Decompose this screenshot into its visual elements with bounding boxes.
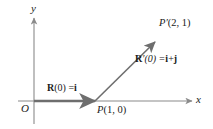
- point-p-prime-symbol: P′: [159, 17, 168, 28]
- vector-diagram: y x O P(1, 0) P′(2, 1) R(0) =i R′(0) =i+…: [0, 0, 213, 129]
- origin-label: O: [21, 103, 29, 114]
- point-label-p-prime: P′(2, 1): [159, 18, 190, 29]
- position-vector-label: R(0) =i: [47, 83, 77, 93]
- position-vector-i-symbol: i: [74, 82, 77, 93]
- velocity-vector-label: R′(0) =i+j: [135, 54, 177, 64]
- velocity-vector-args: ′(0) =: [142, 53, 165, 64]
- point-label-p: P(1, 0): [97, 105, 126, 116]
- point-p-coords: (1, 0): [103, 104, 126, 115]
- velocity-vector-j-symbol: j: [174, 53, 177, 64]
- velocity-vector-arrow: [95, 42, 155, 101]
- y-axis-label: y: [31, 3, 36, 14]
- point-p-prime-coords: (2, 1): [168, 17, 191, 28]
- position-vector-args: (0) =: [54, 82, 74, 93]
- x-axis-label: x: [196, 94, 201, 105]
